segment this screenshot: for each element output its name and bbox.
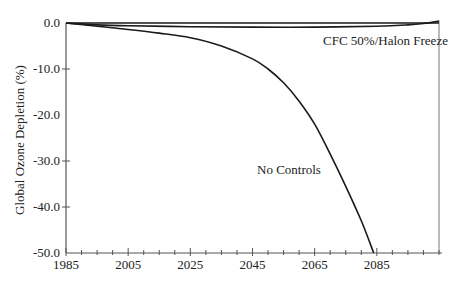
annotation-no-controls: No Controls <box>257 162 321 177</box>
x-tick-label: 2085 <box>364 257 390 272</box>
series-line-no-controls <box>66 23 374 253</box>
series-line-cfc-50-halon-freeze <box>66 21 439 27</box>
y-tick-label: -20.0 <box>33 107 60 122</box>
series-lines <box>66 21 439 253</box>
x-tick-label: 2045 <box>240 257 266 272</box>
ozone-depletion-chart: 1985200520252045206520850.0-10.0-20.0-30… <box>0 0 454 283</box>
x-tick-label: 2025 <box>177 257 203 272</box>
x-tick-label: 2065 <box>302 257 328 272</box>
x-tick-label: 2005 <box>115 257 141 272</box>
annotation-cfc-halon: CFC 50%/Halon Freeze <box>323 33 448 48</box>
y-tick-label: -40.0 <box>33 199 60 214</box>
y-tick-label: -10.0 <box>33 61 60 76</box>
y-axis-title: Global Ozone Depletion (%) <box>12 65 27 215</box>
y-tick-label: -50.0 <box>33 245 60 260</box>
axes <box>66 21 442 253</box>
y-tick-label: -30.0 <box>33 153 60 168</box>
ticks: 1985200520252045206520850.0-10.0-20.0-30… <box>33 15 439 272</box>
y-tick-label: 0.0 <box>44 15 60 30</box>
